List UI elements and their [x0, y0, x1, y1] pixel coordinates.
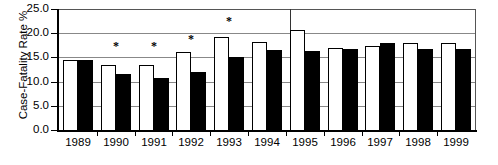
- significance-asterisk: *: [226, 15, 232, 27]
- bar-filled-1992: [191, 72, 206, 130]
- y-tick-label: 5.0: [7, 99, 49, 111]
- x-tick-mark: [399, 131, 400, 136]
- x-tick-mark: [362, 131, 363, 136]
- significance-asterisk: *: [188, 33, 194, 45]
- y-tick-label: 0.0: [7, 123, 49, 135]
- y-tick-mark: [51, 106, 58, 107]
- bar-open-1997: [365, 46, 380, 130]
- bar-filled-1999: [456, 49, 471, 130]
- bar-open-1992: [176, 52, 191, 130]
- bar-open-1989: [63, 60, 78, 130]
- bar-filled-1997: [380, 43, 395, 130]
- x-tick-mark: [324, 131, 325, 136]
- bar-open-1993: [214, 37, 229, 130]
- chart-container: Case-Fatality Rate % 0.05.010.015.020.02…: [0, 0, 498, 165]
- y-tick-label: 10.0: [7, 75, 49, 87]
- bar-filled-1989: [78, 60, 93, 130]
- bar-open-1991: [139, 65, 154, 130]
- y-axis-tick-labels: 0.05.010.015.020.025.0: [0, 0, 49, 165]
- y-tick-mark: [51, 57, 58, 58]
- x-tick-mark: [135, 131, 136, 136]
- x-tick-mark: [210, 131, 211, 136]
- bar-filled-1993: [229, 57, 244, 130]
- x-tick-mark: [286, 131, 287, 136]
- significance-asterisk: *: [113, 40, 119, 52]
- bar-filled-1996: [343, 49, 358, 130]
- bar-open-1998: [403, 43, 418, 130]
- y-tick-mark: [51, 130, 58, 131]
- bar-open-1999: [441, 43, 456, 130]
- x-tick-label-1999: 1999: [433, 136, 479, 148]
- y-tick-label: 25.0: [7, 2, 49, 14]
- y-tick-mark: [51, 82, 58, 83]
- bar-filled-1995: [305, 51, 320, 130]
- bar-open-1995: [290, 30, 305, 130]
- y-tick-mark: [51, 33, 58, 34]
- y-tick-label: 20.0: [7, 26, 49, 38]
- bar-filled-1994: [267, 50, 282, 130]
- y-tick-mark: [51, 9, 58, 10]
- bar-open-1994: [252, 42, 267, 130]
- scan-artifact-line: [290, 9, 291, 30]
- x-tick-mark: [248, 131, 249, 136]
- bar-open-1996: [328, 48, 343, 130]
- bar-filled-1990: [116, 74, 131, 130]
- significance-asterisk: *: [151, 40, 157, 52]
- x-tick-mark: [437, 131, 438, 136]
- y-tick-label: 15.0: [7, 50, 49, 62]
- bar-open-1990: [101, 65, 116, 130]
- x-tick-mark: [97, 131, 98, 136]
- x-tick-mark: [172, 131, 173, 136]
- bar-filled-1991: [154, 78, 169, 130]
- bar-filled-1998: [418, 49, 433, 130]
